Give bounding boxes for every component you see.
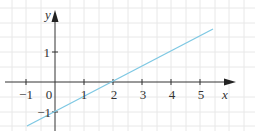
y-axis-arrow-icon — [52, 10, 59, 22]
x-tick-label-5: 5 — [198, 87, 205, 102]
x-axis-arrow-icon — [224, 79, 236, 86]
x-tick-label-1: 1 — [81, 87, 88, 102]
graph: −1 0 1 2 3 4 5 x 1 −1 y — [0, 0, 255, 131]
x-tick-label-minus1: −1 — [19, 87, 33, 102]
x-axis-label: x — [221, 87, 228, 102]
x-tick-label-2: 2 — [111, 87, 118, 102]
x-tick-label-4: 4 — [169, 87, 176, 102]
origin-label: 0 — [46, 87, 53, 102]
y-tick-label-1: 1 — [44, 45, 51, 60]
x-axis — [5, 79, 236, 86]
y-tick-label-minus1: −1 — [37, 105, 51, 120]
x-tick-label-3: 3 — [140, 87, 147, 102]
y-axis-label: y — [43, 7, 51, 22]
